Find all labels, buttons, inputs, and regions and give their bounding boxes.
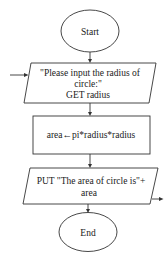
input-line-1: "Please input the radius of [40,68,141,78]
process-label: area←pi*radius*radius [47,130,136,140]
process-box: area←pi*radius*radius [33,116,150,154]
entry-arrow [10,73,29,77]
arrow-output-to-end [86,204,90,213]
output-line-2: area [81,188,98,198]
end-terminal: End [59,213,117,252]
flowchart-canvas: Start "Please input the radius of circle… [0,0,165,261]
arrow-process-to-output [88,154,92,168]
arrow-start-to-input [88,52,92,63]
input-line-2: circle:" [74,79,102,89]
arrow-input-to-process [88,103,92,116]
input-line-3: GET radius [66,90,110,100]
output-line-1: PUT "The area of circle is"+ [37,176,146,186]
start-label: Start [81,27,99,37]
exit-arrow [152,197,164,201]
output-parallelogram: PUT "The area of circle is"+ area [23,168,158,204]
end-label: End [80,228,96,238]
input-parallelogram: "Please input the radius of circle:" GET… [24,63,156,103]
start-terminal: Start [61,10,119,52]
